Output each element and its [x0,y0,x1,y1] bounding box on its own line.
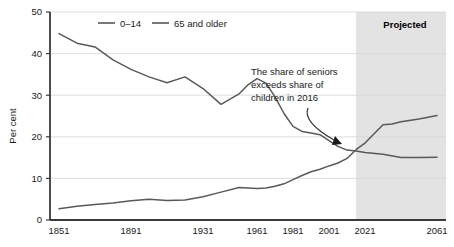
x-tick-label: 1851 [48,225,69,236]
legend-label-seniors: 65 and older [174,18,227,29]
y-axis-ticks: 01020304050 [31,6,50,225]
y-tick-label: 0 [37,214,42,225]
y-tick-label: 20 [31,131,42,142]
y-tick-label: 10 [31,173,42,184]
x-tick-label: 1981 [282,225,303,236]
percent-by-age-group-line-chart: 01020304050 1851189119311961198120012021… [0,0,454,247]
y-tick-label: 30 [31,90,42,101]
x-tick-label: 2001 [318,225,339,236]
projected-region-label: Projected [383,19,426,30]
x-tick-label: 1891 [120,225,141,236]
annotation-line-3: children in 2016 [251,92,318,103]
legend-label-children: 0–14 [120,18,141,29]
annotation-line-2: exceeds share of [251,79,324,90]
x-tick-label: 1931 [192,225,213,236]
x-axis-ticks: 18511891193119611981200120212061 [48,225,447,236]
y-tick-label: 40 [31,48,42,59]
x-tick-label: 2021 [354,225,375,236]
annotation-arrow-head [332,136,342,145]
annotation-line-1: The share of seniors [251,66,338,77]
chart-legend: 0–1465 and older [98,18,227,29]
y-tick-label: 50 [31,6,42,17]
x-tick-label: 1961 [246,225,267,236]
crossover-annotation: The share of seniors exceeds share of ch… [251,66,342,145]
chart-container: 01020304050 1851189119311961198120012021… [0,0,454,247]
y-axis-title: Per cent [7,108,18,144]
x-tick-label: 2061 [426,225,447,236]
